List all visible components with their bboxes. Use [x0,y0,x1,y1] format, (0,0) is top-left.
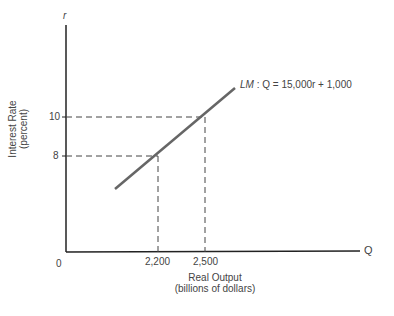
origin-label: 0 [56,258,62,269]
lm-curve [115,88,235,189]
lm-equation: : Q = 15,000r + 1,000 [257,79,352,90]
x-axis-symbol: Q [364,244,373,256]
lm-curve-label: LM : Q = 15,000r + 1,000 [240,79,352,90]
x-axis-title: Real Output (billions of dollars) [160,272,270,294]
x-tick-2500: 2,500 [193,256,218,267]
x-axis [66,251,360,252]
x-axis-label: Real Output [160,272,270,283]
y-axis-label: Interest Rate [7,99,18,159]
y-tick-10: 10 [49,111,60,122]
x-tick-2200: 2,200 [145,256,170,267]
y-axis-symbol: r [63,10,66,21]
y-axis-sublabel: (percent) [18,99,29,159]
lm-name: LM [240,79,254,90]
x-axis-sublabel: (billions of dollars) [160,283,270,294]
y-tick-8: 8 [53,150,59,161]
y-axis-title: Interest Rate (percent) [7,99,29,159]
